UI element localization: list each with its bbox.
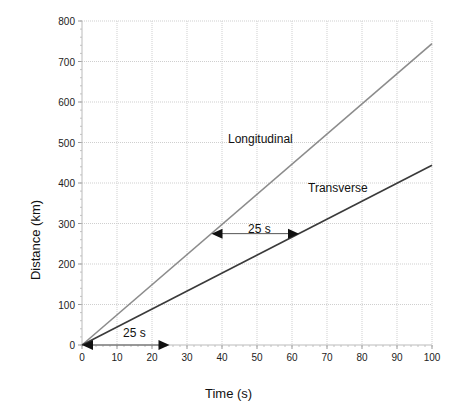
x-tick-label: 90	[391, 352, 403, 363]
x-tick-label: 10	[111, 352, 123, 363]
x-tick-label: 30	[181, 352, 193, 363]
gap-label-lower: 25 s	[123, 326, 146, 340]
x-tick-label: 0	[79, 352, 85, 363]
minor-ticks	[78, 21, 432, 349]
y-tick-label: 300	[58, 219, 75, 230]
x-tick-label: 60	[286, 352, 298, 363]
arrowhead-icon	[212, 229, 223, 239]
x-tick-labels: 0102030405060708090100	[79, 352, 441, 363]
transverse-label: Transverse	[308, 181, 368, 195]
x-tick-label: 80	[356, 352, 368, 363]
y-axis-title: Distance (km)	[28, 200, 43, 280]
x-tick-label: 70	[321, 352, 333, 363]
y-tick-label: 500	[58, 138, 75, 149]
x-tick-label: 100	[424, 352, 441, 363]
series-line-transverse	[82, 165, 432, 345]
y-tick-label: 800	[58, 16, 75, 27]
arrowhead-icon	[159, 340, 170, 350]
x-tick-label: 50	[251, 352, 263, 363]
x-tick-label: 20	[146, 352, 158, 363]
y-tick-labels: 0100200300400500600700800	[58, 16, 75, 351]
y-tick-label: 700	[58, 57, 75, 68]
x-tick-label: 40	[216, 352, 228, 363]
chart: 0102030405060708090100 01002003004005006…	[0, 0, 462, 415]
y-tick-label: 400	[58, 178, 75, 189]
grid	[82, 21, 432, 345]
x-axis-title: Time (s)	[205, 386, 252, 401]
y-tick-label: 100	[58, 300, 75, 311]
longitudinal-label: Longitudinal	[228, 132, 293, 146]
y-tick-label: 200	[58, 259, 75, 270]
y-tick-label: 0	[69, 340, 75, 351]
gap-label-upper: 25 s	[248, 222, 271, 236]
y-tick-label: 600	[58, 97, 75, 108]
